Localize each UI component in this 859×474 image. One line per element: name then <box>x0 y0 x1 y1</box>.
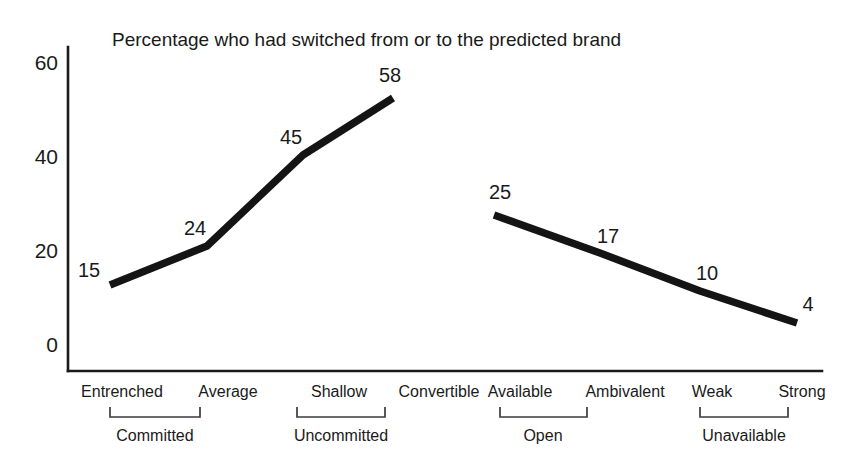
x-category-label-available: Available <box>488 383 553 400</box>
data-label-convertible: 58 <box>379 64 401 86</box>
group-label-committed: Committed <box>116 427 193 444</box>
chart-title: Percentage who had switched from or to t… <box>112 29 621 50</box>
y-tick-label-60: 60 <box>35 51 58 74</box>
y-tick-label-40: 40 <box>35 145 58 168</box>
x-category-label-ambivalent: Ambivalent <box>585 383 665 400</box>
x-category-label-shallow: Shallow <box>311 383 367 400</box>
group-label-uncommitted: Uncommitted <box>294 427 388 444</box>
series-line-committed-uncommitted <box>110 98 393 285</box>
group-bracket-unavailable <box>700 407 788 417</box>
y-tick-label-20: 20 <box>35 239 58 262</box>
data-label-weak: 10 <box>696 262 718 284</box>
y-tick-label-0: 0 <box>46 333 58 356</box>
data-label-strong: 4 <box>802 293 813 315</box>
group-bracket-uncommitted <box>297 407 385 417</box>
data-label-entrenched: 15 <box>78 259 100 281</box>
data-label-shallow: 45 <box>280 126 302 148</box>
chart-container: Percentage who had switched from or to t… <box>0 0 859 474</box>
x-category-label-convertible: Convertible <box>399 383 480 400</box>
x-category-label-strong: Strong <box>778 383 825 400</box>
group-bracket-committed <box>110 407 200 417</box>
group-label-open: Open <box>523 427 562 444</box>
data-label-average: 24 <box>184 217 206 239</box>
group-bracket-open <box>500 407 587 417</box>
line-chart: Percentage who had switched from or to t… <box>0 0 859 474</box>
x-category-label-weak: Weak <box>692 383 734 400</box>
data-label-available: 25 <box>489 181 511 203</box>
x-category-label-entrenched: Entrenched <box>81 383 163 400</box>
data-label-ambivalent: 17 <box>597 225 619 247</box>
group-label-unavailable: Unavailable <box>702 427 786 444</box>
series-line-open-unavailable <box>494 215 797 323</box>
x-category-label-average: Average <box>198 383 257 400</box>
